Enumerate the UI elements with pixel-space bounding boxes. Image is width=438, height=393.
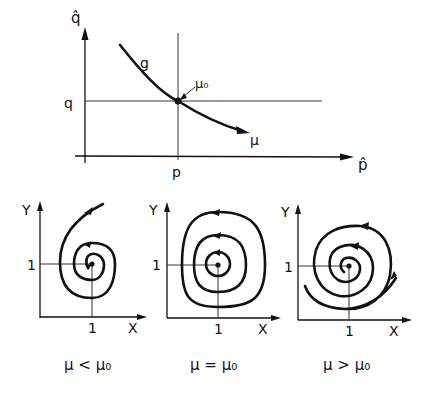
trajectory-arrow-icon (350, 242, 359, 250)
figure-canvas: q̂ p̂ q p g μ₀ μ Y 1 1 X μ < μ₀ (0, 0, 438, 393)
curve-g (120, 45, 242, 131)
top-plot: q̂ p̂ q p g μ₀ μ (64, 9, 368, 180)
y-tick-label: 1 (152, 257, 161, 273)
caption: μ > μ₀ (323, 356, 370, 374)
portrait-unstable-spiral: Y 1 1 X μ > μ₀ (280, 204, 412, 374)
x-label: X (258, 321, 268, 337)
x-axis-arrow-icon (271, 315, 281, 321)
q-tick-label: q (64, 95, 73, 111)
fixed-point (346, 263, 351, 268)
portrait-center: Y 1 1 X μ = μ₀ (148, 202, 281, 374)
p-hat-axis (75, 156, 345, 157)
fixed-point (215, 262, 220, 267)
y-label: Y (280, 204, 290, 220)
p-hat-axis-arrow-icon (340, 154, 354, 161)
q-hat-axis-arrow-icon (82, 27, 89, 40)
x-axis-arrow-icon (137, 314, 147, 320)
p-hat-label: p̂ (358, 156, 368, 174)
y-label: Y (148, 202, 158, 218)
orbit-arrow-icon (211, 209, 220, 216)
y-label: Y (21, 202, 31, 218)
y-axis-arrow-icon (295, 204, 301, 214)
y-tick-label: 1 (27, 257, 36, 273)
mu0-label: μ₀ (195, 76, 208, 91)
trajectory-arrow-icon (359, 222, 369, 230)
p-tick-label: p (172, 164, 181, 180)
caption: μ = μ₀ (190, 356, 237, 374)
x-label: X (389, 323, 399, 339)
orbit-arrow-icon (213, 232, 221, 239)
mu-label: μ (250, 132, 259, 148)
x-label: X (128, 320, 138, 336)
portrait-stable-spiral: Y 1 1 X μ < μ₀ (21, 201, 147, 374)
x-tick-label: 1 (88, 320, 97, 336)
y-tick-label: 1 (284, 259, 293, 275)
y-axis-arrow-icon (37, 201, 43, 211)
caption: μ < μ₀ (64, 356, 111, 374)
x-tick-label: 1 (345, 323, 354, 339)
x-axis-arrow-icon (402, 317, 412, 323)
curve-g-label: g (140, 55, 149, 71)
spiral-trajectory (60, 204, 115, 298)
q-hat-label: q̂ (71, 9, 81, 27)
orbit-arrow-icon (214, 249, 220, 256)
fixed-point (89, 261, 94, 266)
equilibrium-point-mu0 (175, 98, 182, 105)
y-axis-arrow-icon (164, 202, 170, 212)
x-tick-label: 1 (214, 321, 223, 337)
curve-direction-arrow-icon (236, 126, 250, 134)
